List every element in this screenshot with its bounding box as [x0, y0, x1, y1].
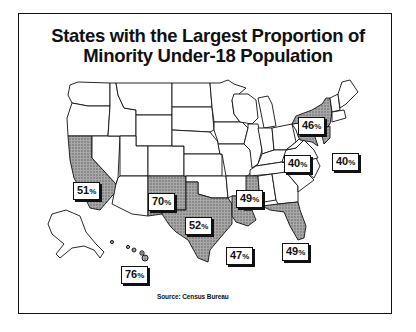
- state-iowa: [214, 122, 248, 144]
- state-michigan: [258, 96, 276, 128]
- label-california: 51%: [73, 182, 100, 200]
- state-oregon: [67, 103, 110, 136]
- state-arizona: [112, 176, 148, 216]
- state-florida: [262, 202, 306, 240]
- state-washington: [68, 82, 110, 106]
- source-note: Source: Census Bureau: [157, 293, 229, 300]
- label-new-jersey: 40%: [332, 153, 359, 171]
- state-colorado: [148, 146, 184, 176]
- label-texas: 52%: [185, 217, 212, 235]
- state-south-dakota: [172, 107, 214, 132]
- state-alaska: [48, 210, 104, 258]
- state-mass-ct-ri: [332, 110, 346, 122]
- state-north-dakota: [172, 83, 212, 107]
- label-new-mexico: 70%: [148, 193, 175, 211]
- label-florida: 49%: [282, 243, 309, 261]
- label-hawaii: 76%: [121, 266, 148, 284]
- label-new-york: 46%: [298, 117, 325, 135]
- state-kansas: [184, 154, 222, 176]
- state-hawaii: [110, 240, 148, 261]
- label-maryland: 40%: [284, 155, 311, 173]
- label-mississippi: 49%: [236, 190, 263, 208]
- label-louisiana: 47%: [226, 247, 253, 265]
- state-maine: [338, 80, 358, 108]
- state-wyoming: [136, 115, 172, 146]
